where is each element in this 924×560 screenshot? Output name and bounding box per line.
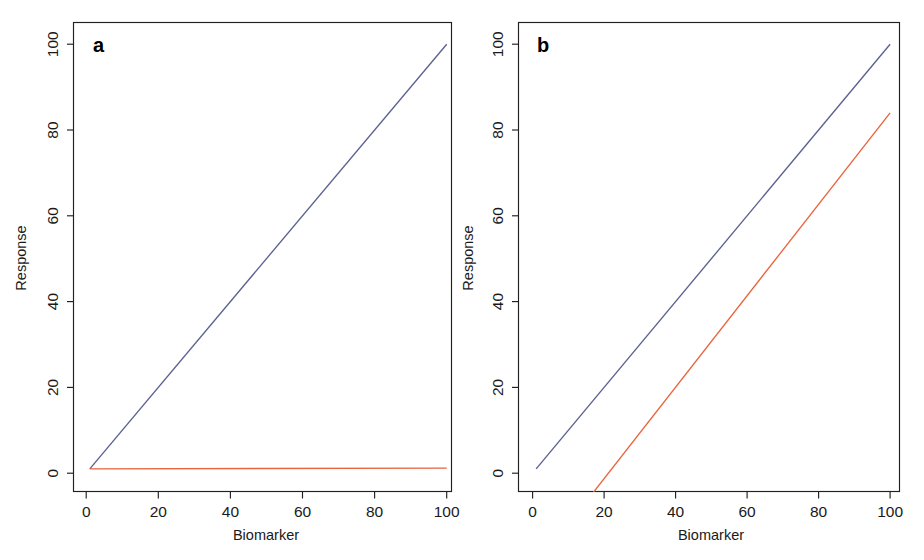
panel-a-svg: 0 20 40 60 80 100 Response 0 20	[0, 0, 462, 560]
figure-canvas: 0 20 40 60 80 100 Response 0 20	[0, 0, 924, 560]
x-tick-label: 40	[667, 503, 685, 520]
x-tick-label: 60	[294, 503, 312, 520]
y-axis-ticks	[512, 44, 519, 473]
chart-panel-b: 0 20 40 60 80 100 Response 0 20	[462, 0, 924, 560]
x-tick-label: 60	[738, 503, 756, 520]
y-tick-label: 40	[44, 293, 61, 311]
y-tick-label: 20	[489, 378, 506, 396]
y-tick-label: 0	[489, 469, 506, 478]
x-tick-label: 80	[810, 503, 828, 520]
series-line-treatment-blue	[90, 44, 447, 469]
panel-label-a: a	[93, 34, 105, 56]
x-axis-title: Biomarker	[678, 527, 744, 543]
y-tick-label: 100	[489, 31, 506, 57]
series-line-treatment-blue	[536, 44, 890, 469]
y-tick-label: 80	[489, 121, 506, 139]
x-axis-tick-labels: 0 20 40 60 80 100	[82, 503, 460, 520]
y-tick-label: 60	[489, 207, 506, 225]
x-tick-label: 20	[150, 503, 168, 520]
y-axis-title: Response	[13, 225, 29, 290]
x-axis-title: Biomarker	[233, 527, 299, 543]
y-tick-label: 100	[44, 31, 61, 57]
y-axis-ticks	[67, 44, 74, 473]
x-tick-label: 20	[595, 503, 613, 520]
series-line-control-orange	[592, 113, 891, 495]
chart-panel-a: 0 20 40 60 80 100 Response 0 20	[0, 0, 462, 560]
x-tick-label: 100	[877, 503, 903, 520]
x-tick-label: 100	[434, 503, 460, 520]
x-axis-tick-labels: 0 20 40 60 80 100	[528, 503, 903, 520]
x-tick-label: 0	[82, 503, 91, 520]
y-tick-label: 60	[44, 207, 61, 225]
x-tick-label: 80	[366, 503, 384, 520]
panel-label-b: b	[537, 34, 549, 56]
panel-b-svg: 0 20 40 60 80 100 Response 0 20	[462, 0, 924, 560]
series-group	[90, 44, 447, 469]
x-tick-label: 40	[222, 503, 240, 520]
y-tick-label: 20	[44, 378, 61, 396]
series-group	[536, 44, 890, 494]
series-line-control-orange	[90, 468, 447, 469]
y-axis-tick-labels: 0 20 40 60 80 100	[489, 31, 506, 478]
y-tick-label: 80	[44, 121, 61, 139]
x-axis-ticks	[533, 492, 891, 499]
x-axis-ticks	[86, 492, 447, 499]
y-tick-label: 0	[44, 469, 61, 478]
y-axis-title: Response	[462, 225, 476, 290]
y-axis-tick-labels: 0 20 40 60 80 100	[44, 31, 61, 478]
x-tick-label: 0	[528, 503, 537, 520]
y-tick-label: 40	[489, 293, 506, 311]
